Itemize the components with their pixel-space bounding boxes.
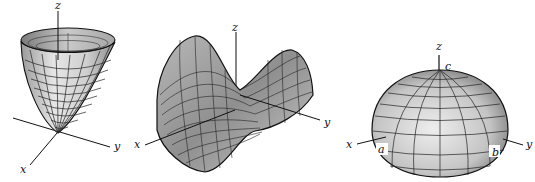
- z-axis-label: z: [231, 21, 238, 34]
- y-axis-label: y: [323, 116, 331, 129]
- x-axis-line: [30, 133, 57, 165]
- x-axis-label: x: [346, 138, 353, 151]
- x-axis-label: x: [20, 163, 27, 176]
- saddle-surface: [157, 36, 313, 172]
- x-axis-label: x: [134, 138, 141, 151]
- y-axis-label: y: [525, 138, 533, 151]
- paraboloid-figure: z y x: [13, 0, 121, 176]
- z-axis-label: z: [54, 0, 61, 12]
- y-axis-label: y: [113, 140, 121, 153]
- quadric-surfaces-diagram: z y x z y: [0, 0, 535, 182]
- saddle-figure: z y x: [134, 21, 331, 172]
- a-intercept-label: a: [378, 143, 385, 156]
- z-axis-label: z: [435, 40, 442, 53]
- paraboloid-surface: [21, 42, 115, 133]
- ellipsoid-figure: z c x a b y: [346, 40, 533, 177]
- c-intercept-label: c: [445, 60, 451, 73]
- b-intercept-label: b: [492, 146, 499, 159]
